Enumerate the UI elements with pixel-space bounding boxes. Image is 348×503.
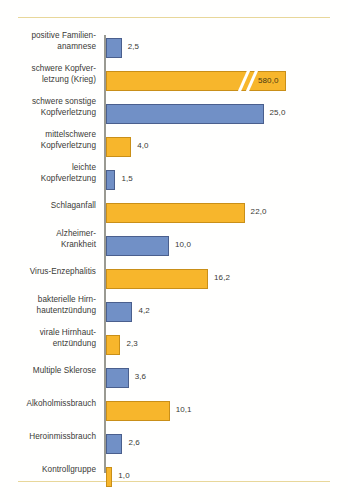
bar-chart-figure: positive Familien-anamnese2,5schwere Kop… <box>0 0 348 503</box>
category-label: bakterielle Hirn-hautentzündung <box>4 295 96 316</box>
category-label-line2: letzung (Krieg) <box>42 75 96 84</box>
bar <box>106 170 115 190</box>
bar-value-label: 4,2 <box>138 306 149 315</box>
bar-row: bakterielle Hirn-hautentzündung4,2 <box>0 294 348 327</box>
bar-row: Alzheimer-Krankheit10,0 <box>0 228 348 261</box>
bar-value-label: 1,0 <box>118 471 129 480</box>
bar <box>106 368 129 388</box>
bar-value-label: 10,0 <box>175 240 191 249</box>
bar <box>106 335 120 355</box>
category-label: Heroinmissbrauch <box>4 432 96 443</box>
category-label: positive Familien-anamnese <box>4 31 96 52</box>
category-label: schwere sonstigeKopfverletzung <box>4 97 96 118</box>
bar-row: Schlaganfall22,0 <box>0 195 348 228</box>
bar-value-label: 580,0 <box>258 76 279 85</box>
bar-row: Kontrollgruppe1,0 <box>0 459 348 492</box>
bar <box>106 467 112 487</box>
category-label: Kontrollgruppe <box>4 465 96 476</box>
top-divider-rule <box>18 17 330 18</box>
bar-value-label: 1,5 <box>121 174 132 183</box>
bar-row: Virus-Enzephalitis16,2 <box>0 261 348 294</box>
bar-value-label: 10,1 <box>176 405 192 414</box>
plot-area: positive Familien-anamnese2,5schwere Kop… <box>0 30 348 475</box>
bar-row: schwere sonstigeKopfverletzung25,0 <box>0 96 348 129</box>
bar <box>106 137 131 157</box>
category-label-line2: Krankheit <box>61 240 96 249</box>
bar <box>106 269 208 289</box>
bar-row: Multiple Sklerose3,6 <box>0 360 348 393</box>
category-label: Virus-Enzephalitis <box>4 267 96 278</box>
category-label: schwere Kopfver-letzung (Krieg) <box>4 64 96 85</box>
category-label-line2: entzündung <box>53 339 96 348</box>
category-label-line2: Kopfverletzung <box>41 108 96 117</box>
category-label-line2: Kopfverletzung <box>41 174 96 183</box>
bar <box>106 104 264 124</box>
bar <box>106 203 245 223</box>
bar-value-label: 3,6 <box>135 372 146 381</box>
bar-value-label: 25,0 <box>270 108 286 117</box>
bar-value-label: 2,6 <box>128 438 139 447</box>
category-label: Multiple Sklerose <box>4 366 96 377</box>
category-label: Alzheimer-Krankheit <box>4 229 96 250</box>
bar-row: schwere Kopfver-letzung (Krieg)580,0 <box>0 63 348 96</box>
category-label-line2: hautentzündung <box>37 306 96 315</box>
bar-row: leichteKopfverletzung1,5 <box>0 162 348 195</box>
bar-row: Alkoholmissbrauch10,1 <box>0 393 348 426</box>
category-label: mittelschwereKopfverletzung <box>4 130 96 151</box>
bar <box>106 236 169 256</box>
bar-value-label: 2,5 <box>128 42 139 51</box>
bar <box>106 38 122 58</box>
bar-value-label: 2,3 <box>126 339 137 348</box>
category-label-line2: anamnese <box>57 42 96 51</box>
bar-row: positive Familien-anamnese2,5 <box>0 30 348 63</box>
category-label: leichteKopfverletzung <box>4 163 96 184</box>
bar <box>106 302 132 322</box>
bar <box>106 401 170 421</box>
category-label: Schlaganfall <box>4 201 96 212</box>
bar-row: Heroinmissbrauch2,6 <box>0 426 348 459</box>
bar-value-label: 4,0 <box>137 141 148 150</box>
category-label: Alkoholmissbrauch <box>4 399 96 410</box>
bar-value-label: 16,2 <box>214 273 230 282</box>
bar-value-label: 22,0 <box>251 207 267 216</box>
bar <box>106 434 122 454</box>
category-label-line2: Kopfverletzung <box>41 141 96 150</box>
category-label: virale Hirnhaut-entzündung <box>4 328 96 349</box>
bar-row: mittelschwereKopfverletzung4,0 <box>0 129 348 162</box>
bar-row: virale Hirnhaut-entzündung2,3 <box>0 327 348 360</box>
